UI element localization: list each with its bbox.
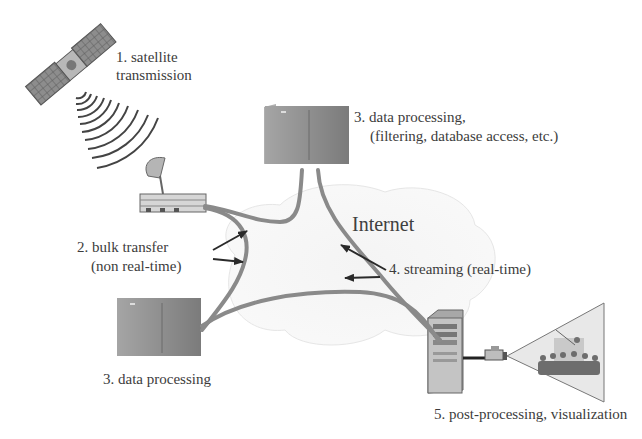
streaming-label: 4. streaming (real-time) <box>389 260 531 278</box>
diagram-graphics <box>0 0 642 439</box>
satellite-icon <box>26 24 116 105</box>
processing-top-label-line2: (filtering, database access, etc.) <box>370 127 558 145</box>
server-cabinet-bottom-icon <box>117 298 201 356</box>
visualization-label: 5. post-processing, visualization <box>434 405 627 423</box>
server-cabinet-top-icon <box>264 104 349 164</box>
satellite-label-line2: transmission <box>116 66 192 84</box>
radio-waves-icon <box>76 92 158 168</box>
arrow-icon <box>345 277 380 278</box>
diagram-canvas: 1. satellite transmission 3. data proces… <box>0 0 642 439</box>
bulk-transfer-label-line1: 2. bulk transfer <box>77 238 168 256</box>
projection-audience-icon <box>507 303 604 402</box>
satellite-label-line1: 1. satellite <box>116 48 178 66</box>
processing-bottom-label: 3. data processing <box>103 370 211 388</box>
satellite-dish-building-icon <box>140 157 206 212</box>
projector-icon <box>463 346 507 360</box>
processing-top-label-line1: 3. data processing, <box>354 108 466 126</box>
bulk-transfer-label-line2: (non real-time) <box>91 257 181 275</box>
tower-computer-icon <box>428 310 463 393</box>
internet-label: Internet <box>352 213 414 235</box>
